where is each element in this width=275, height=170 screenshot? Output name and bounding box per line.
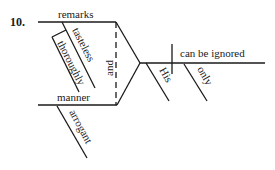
word-manner: manner <box>57 91 90 103</box>
join-line-top <box>116 22 140 63</box>
word-can-be-ignored: can be ignored <box>180 47 245 59</box>
sentence-diagram: 10. remarks tasteless thoroughly manner … <box>0 0 275 170</box>
problem-number: 10. <box>10 15 25 29</box>
word-arrogant: arrogant <box>67 107 95 145</box>
word-only: only <box>195 64 215 87</box>
join-line-bottom <box>117 63 140 105</box>
word-remarks: remarks <box>58 8 93 20</box>
connector-thoroughly <box>52 30 66 37</box>
word-and: and <box>103 60 115 76</box>
